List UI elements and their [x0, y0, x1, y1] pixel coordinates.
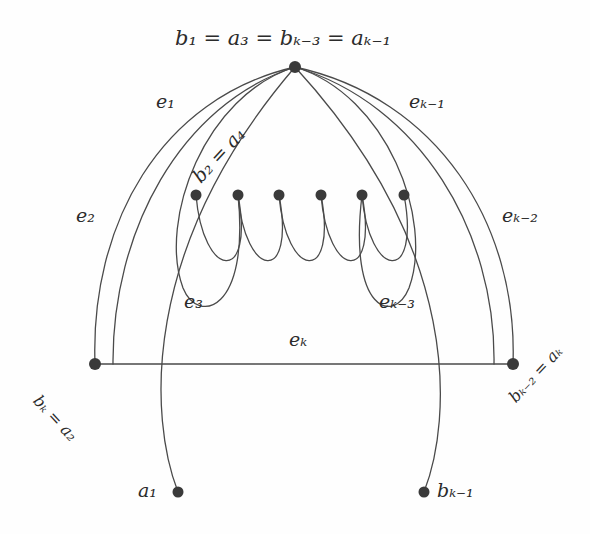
right-vertex	[507, 358, 519, 370]
pendant-a1-label: a₁	[138, 481, 157, 500]
pendant-vertex-a1	[173, 487, 184, 498]
edge-pendant-bk-1	[295, 67, 440, 492]
middle-vertex-3	[274, 190, 285, 201]
edge-label-ek-3: eₖ₋₃	[379, 292, 415, 311]
edge-e3-loop	[176, 67, 295, 306]
middle-vertex-1	[191, 190, 202, 201]
edge-middle-arc-2	[238, 195, 282, 261]
edge-label-ek: eₖ	[289, 330, 307, 349]
pendant-vertex-bk-1	[419, 487, 430, 498]
middle-vertex-6	[399, 190, 410, 201]
apex-vertex	[289, 61, 301, 73]
graph-diagram-svg	[0, 0, 590, 534]
edge-group	[95, 67, 513, 492]
left-vertex	[89, 358, 101, 370]
edge-label-e1: e₁	[156, 92, 175, 111]
edge-label-e2: e₂	[76, 206, 95, 225]
edge-middle-arc-4	[321, 195, 365, 261]
edge-label-e3: e₃	[184, 292, 203, 311]
edge-middle-arc-1	[196, 195, 241, 261]
edge-label-ek-1: eₖ₋₁	[409, 92, 445, 111]
edge-ek-3-loop	[295, 67, 416, 306]
edge-middle-arc-5	[362, 195, 407, 261]
edge-e2	[113, 67, 295, 364]
edge-label-ek-2: eₖ₋₂	[502, 206, 538, 225]
edge-e1	[95, 67, 295, 364]
pendant-bk-1-label: bₖ₋₁	[437, 481, 474, 500]
middle-vertex-5	[357, 190, 368, 201]
middle-vertex-4	[316, 190, 327, 201]
edge-ek-1	[295, 67, 513, 364]
figure-page: b₁ = a₃ = bₖ₋₃ = aₖ₋₁ bₖ = a₂ bₖ₋₂ = aₖ …	[0, 0, 590, 534]
vertex-group	[89, 61, 519, 498]
edge-middle-arc-3	[279, 195, 324, 261]
middle-vertex-2	[233, 190, 244, 201]
edge-ek-2	[295, 67, 494, 364]
apex-vertex-label: b₁ = a₃ = bₖ₋₃ = aₖ₋₁	[175, 28, 391, 49]
